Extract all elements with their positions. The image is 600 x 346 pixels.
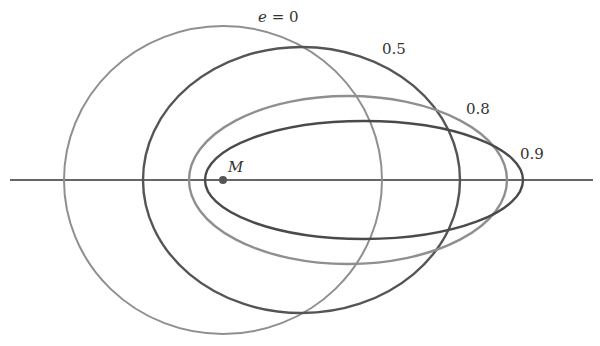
label-e-value: = 0 — [267, 8, 299, 26]
orbit-drawing — [0, 0, 600, 346]
label-e-0-9: 0.9 — [520, 145, 544, 163]
label-e-0: e = 0 — [258, 8, 299, 26]
label-e-variable: e — [258, 8, 267, 26]
label-e-0-5: 0.5 — [382, 40, 406, 58]
orbit-diagram: e = 0 0.5 0.8 0.9 M — [0, 0, 600, 346]
label-focus-m: M — [228, 158, 243, 176]
focus-point-m — [219, 176, 227, 184]
label-e-0-8: 0.8 — [466, 100, 490, 118]
